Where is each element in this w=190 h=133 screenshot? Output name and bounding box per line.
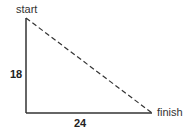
finish-label: finish <box>157 107 183 118</box>
vertical-side-length: 18 <box>10 69 22 80</box>
start-label: start <box>16 4 37 15</box>
horizontal-side-length: 24 <box>74 118 86 129</box>
hypotenuse-dashed-line <box>26 18 152 113</box>
